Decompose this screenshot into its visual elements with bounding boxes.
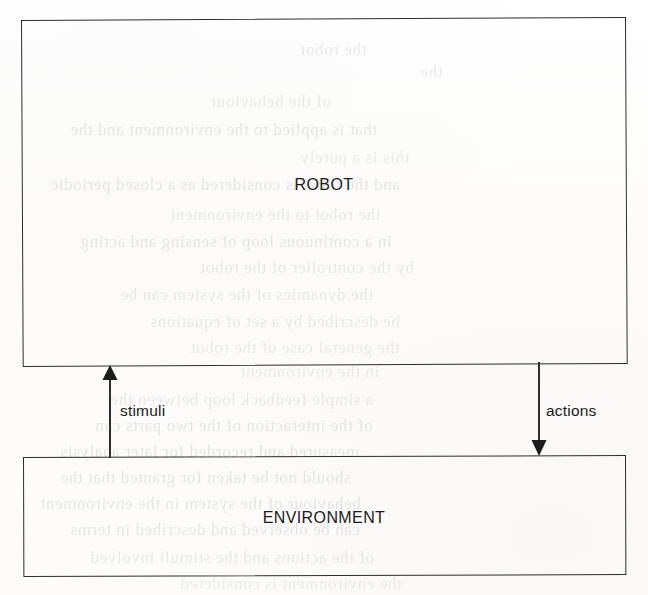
robot-block-label: ROBOT bbox=[0, 176, 648, 194]
environment-block-label: ENVIRONMENT bbox=[0, 509, 648, 527]
scanned-figure-page: the robottheof the behaviourthat is appl… bbox=[0, 0, 648, 595]
stimuli-label: stimuli bbox=[120, 402, 165, 420]
actions-label: actions bbox=[546, 402, 597, 420]
ghost-text-line: the environment is considered bbox=[180, 574, 402, 594]
